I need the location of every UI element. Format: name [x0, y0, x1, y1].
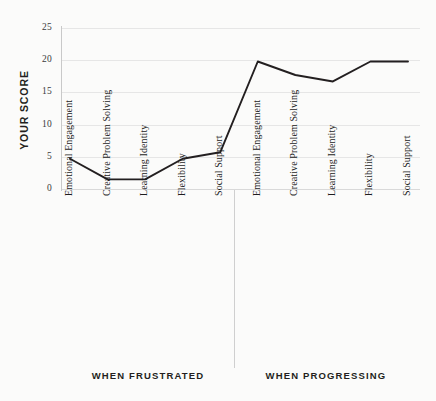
x-category-label: Emotional Engagement	[63, 46, 74, 196]
y-tick-label-25: 25	[8, 22, 52, 32]
gridline-25	[62, 28, 420, 29]
x-category-label: Creative Problem Solving	[288, 46, 299, 196]
x-category-label: Learning Identity	[138, 46, 149, 196]
x-category-label: Social Support	[213, 46, 224, 196]
group-heading-frustrated: WHEN FRUSTRATED	[60, 370, 236, 381]
y-tick-label-5: 5	[8, 151, 52, 161]
x-category-label: Learning Identity	[326, 46, 337, 196]
y-axis-line	[61, 26, 62, 191]
x-category-label: Flexibility	[176, 46, 187, 196]
x-category-label: Emotional Engagement	[251, 46, 262, 196]
x-category-label: Creative Problem Solving	[101, 46, 112, 196]
line-chart: YOUR SCORE 0510152025 Emotional Engageme…	[0, 0, 436, 401]
group-heading-progressing: WHEN PROGRESSING	[236, 370, 416, 381]
x-category-label: Flexibility	[363, 46, 374, 196]
y-tick-label-15: 15	[8, 86, 52, 96]
y-tick-label-0: 0	[8, 183, 52, 193]
y-tick-label-10: 10	[8, 119, 52, 129]
group-divider	[234, 190, 235, 368]
x-category-label: Social Support	[401, 46, 412, 196]
y-tick-label-20: 20	[8, 54, 52, 64]
